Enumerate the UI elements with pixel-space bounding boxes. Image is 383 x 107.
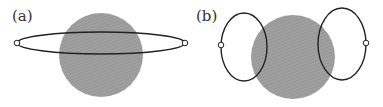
figure: (a) (b) — [0, 0, 383, 107]
panel-a-label: (a) — [12, 7, 33, 25]
panel-b-marker-left — [218, 42, 224, 48]
panel-a-marker-left — [14, 40, 20, 46]
panel-b: (b) — [196, 7, 369, 99]
panel-b-marker-right — [363, 40, 369, 46]
panel-a: (a) — [12, 7, 188, 97]
panel-a-disc — [59, 13, 143, 97]
panel-a-marker-right — [182, 40, 188, 46]
panel-b-label: (b) — [196, 7, 217, 25]
